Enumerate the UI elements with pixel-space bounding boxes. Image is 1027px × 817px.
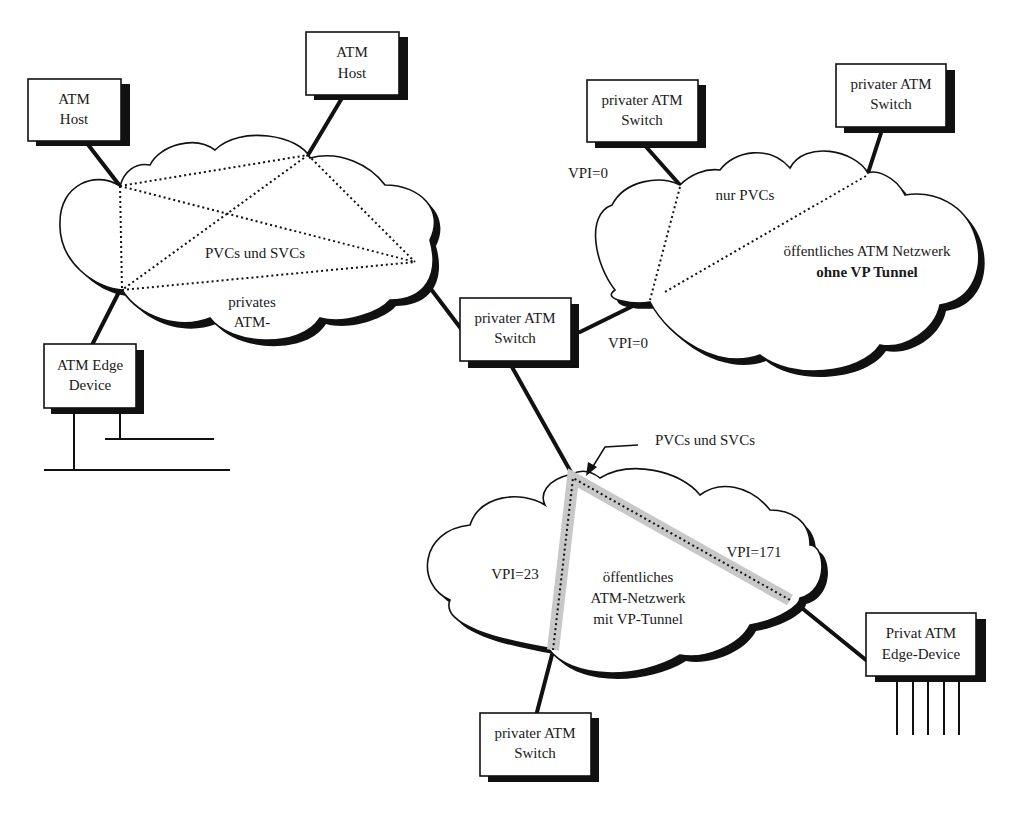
link-edge-to-private-cloud xyxy=(92,290,120,345)
node-atm-host-left: ATM Host xyxy=(28,79,130,146)
atm-edge-device-line2: Device xyxy=(69,377,112,393)
vpi-label-top-left-switch: VPI=0 xyxy=(568,165,608,181)
link-top-right-switch-to-public-cloud xyxy=(868,130,882,173)
node-private-switch-bottom: privater ATM Switch xyxy=(480,713,599,782)
node-private-switch-center: privater ATM Switch xyxy=(460,298,579,368)
atm-host-top-line1: ATM xyxy=(336,44,368,60)
node-atm-edge-device: ATM Edge Device xyxy=(44,344,230,470)
tunnel-cloud-name-line3: mit VP-Tunnel xyxy=(593,611,683,627)
tunnel-cloud-name-line2: ATM-Netzwerk xyxy=(591,590,686,606)
cloud-public-atm-no-tunnel: nur PVCs öffentliches ATM Netzwerk ohne … xyxy=(596,151,985,377)
cloud-public-atm-with-tunnel: VPI=23 VPI=171 öffentliches ATM-Netzwerk… xyxy=(427,432,827,679)
atm-host-top-line2: Host xyxy=(338,65,367,81)
private-switch-top-right-line1: privater ATM xyxy=(850,76,931,92)
private-cloud-name-line1: privates xyxy=(228,294,276,310)
private-switch-center-line2: Switch xyxy=(494,330,536,346)
tunnel-vpi-left-label: VPI=23 xyxy=(491,566,539,582)
link-host-top-to-private-cloud xyxy=(308,98,342,155)
cloud-private-atm-network: PVCs und SVCs privates ATM- xyxy=(60,135,441,346)
tunnel-callout-label: PVCs und SVCs xyxy=(655,432,755,448)
public-cloud-name-line2: ohne VP Tunnel xyxy=(816,264,917,280)
private-switch-top-left-line2: Switch xyxy=(621,112,663,128)
atm-network-diagram: PVCs und SVCs privates ATM- nur PVCs öff… xyxy=(0,0,1027,817)
private-switch-top-right-line2: Switch xyxy=(870,96,912,112)
public-cloud-name-line1: öffentliches ATM Netzwerk xyxy=(783,243,951,259)
link-tunnel-cloud-to-bottom-switch xyxy=(537,651,553,712)
tunnel-vpi-right-label: VPI=171 xyxy=(726,544,781,560)
atm-host-left-line1: ATM xyxy=(58,91,90,107)
private-cloud-name-line2: ATM- xyxy=(234,314,271,330)
node-private-edge-device: Privat ATM Edge-Device xyxy=(866,613,986,735)
private-switch-bottom-line1: privater ATM xyxy=(494,725,575,741)
tunnel-cloud-name-line1: öffentliches xyxy=(603,569,674,585)
atm-edge-device-line1: ATM Edge xyxy=(57,357,124,373)
lan-bus-lines xyxy=(44,414,230,470)
private-edge-device-line1: Privat ATM xyxy=(886,625,956,641)
private-edge-device-line2: Edge-Device xyxy=(882,646,961,662)
private-cloud-connections-label: PVCs und SVCs xyxy=(205,245,305,261)
vpi-label-center-switch: VPI=0 xyxy=(608,335,648,351)
node-private-switch-top-right: privater ATM Switch xyxy=(836,64,955,133)
private-switch-center-line1: privater ATM xyxy=(474,310,555,326)
public-cloud-connections-label: nur PVCs xyxy=(716,187,775,203)
atm-host-left-line2: Host xyxy=(60,111,89,127)
edge-device-port-lines xyxy=(897,682,959,735)
link-center-switch-to-tunnel-cloud xyxy=(512,367,572,474)
node-private-switch-top-left: privater ATM Switch xyxy=(587,80,706,148)
private-switch-top-left-line1: privater ATM xyxy=(601,92,682,108)
node-atm-host-top: ATM Host xyxy=(306,32,408,100)
private-switch-bottom-line2: Switch xyxy=(514,745,556,761)
